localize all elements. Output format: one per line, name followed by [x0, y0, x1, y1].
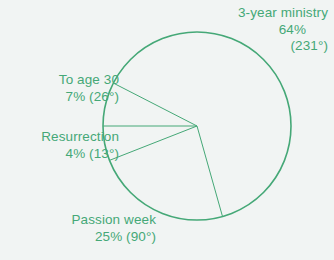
slice-label-value: 4% (13°): [0, 146, 119, 163]
slice-label-value: 7% (26°): [8, 89, 119, 106]
pie-divider-ministry-age30: [113, 83, 197, 126]
slice-label-name: Passion week: [22, 212, 156, 229]
pie-divider-passion-ministry: [197, 126, 223, 217]
pie-chart-figure: 3-year ministry 64% (231°) To age 30 7% …: [0, 0, 334, 260]
slice-label-3-year-ministry: 3-year ministry 64% (231°): [186, 5, 328, 55]
slice-label-degrees: (231°): [186, 38, 328, 55]
slice-label-name: To age 30: [8, 72, 119, 89]
slice-label-resurrection: Resurrection 4% (13°): [0, 129, 119, 162]
slice-label-value: 25% (90°): [22, 229, 156, 246]
slice-label-name: Resurrection: [0, 129, 119, 146]
slice-label-name: 3-year ministry: [186, 5, 328, 22]
pie-divider-resurrection-passion: [109, 126, 197, 160]
slice-label-passion-week: Passion week 25% (90°): [22, 212, 156, 245]
slice-label-percent: 64%: [186, 22, 328, 39]
slice-label-to-age-30: To age 30 7% (26°): [8, 72, 119, 105]
